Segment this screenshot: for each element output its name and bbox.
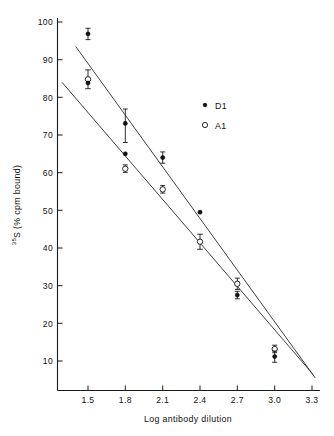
data-point-d1	[86, 81, 90, 85]
data-point-d1	[198, 210, 202, 214]
legend-marker-d1-icon	[203, 103, 207, 107]
y-tick-label-30: 30	[43, 281, 53, 291]
data-point-a1	[235, 281, 240, 286]
fit-line-d1	[76, 47, 316, 379]
data-point-d1	[123, 152, 127, 156]
regression-lines	[62, 47, 315, 379]
data-point-d1	[123, 121, 127, 125]
svg-text:35S (% cpm bound): 35S (% cpm bound)	[11, 165, 22, 246]
data-point-a1	[123, 166, 128, 171]
y-tick-label-90: 90	[43, 55, 53, 65]
x-tick-label-6: 3.0	[268, 395, 281, 405]
series-d1	[86, 28, 278, 362]
axes	[58, 18, 321, 391]
data-point-d1	[86, 32, 90, 36]
y-axis-title: 35S (% cpm bound)	[11, 165, 22, 246]
y-tick-label-80: 80	[43, 93, 53, 103]
data-point-d1	[273, 355, 277, 359]
x-tick-label-2: 1.8	[119, 395, 132, 405]
y-tick-label-10: 10	[43, 356, 53, 366]
y-tick-label-40: 40	[43, 243, 53, 253]
y-tick-label-20: 20	[43, 319, 53, 329]
legend-label-d1: D1	[215, 101, 227, 111]
x-tick-label-3: 2.1	[156, 395, 169, 405]
legend-label-a1: A1	[215, 121, 227, 131]
fit-line-a1	[62, 82, 313, 374]
legend-marker-a1-icon	[202, 122, 207, 127]
legend: D1 A1	[202, 101, 227, 131]
y-tick-label-70: 70	[43, 130, 53, 140]
y-axis-ticks: 100 90 80 70 60 50 40 30 20 10	[38, 17, 63, 366]
x-tick-label-4: 2.4	[194, 395, 207, 405]
data-point-a1	[197, 239, 202, 244]
y-tick-label-100: 100	[38, 17, 53, 27]
x-tick-label-7: 3.3	[306, 395, 319, 405]
x-tick-label-5: 2.7	[231, 395, 244, 405]
x-axis-ticks: 1.5 1.8 2.1 2.4 2.7 3.0 3.3	[82, 386, 319, 406]
data-point-d1	[161, 156, 165, 160]
y-tick-label-50: 50	[43, 206, 53, 216]
data-point-a1	[160, 187, 165, 192]
data-point-d1	[235, 293, 239, 297]
scatter-plot: 100 90 80 70 60 50 40 30 20 10 1.5 1.8 2…	[0, 0, 334, 436]
x-axis-title: Log antibody dilution	[144, 414, 232, 424]
y-axis-title-main: S (% cpm bound)	[12, 165, 22, 238]
y-tick-label-60: 60	[43, 168, 53, 178]
series-a1	[85, 70, 277, 353]
figure-container: 100 90 80 70 60 50 40 30 20 10 1.5 1.8 2…	[0, 0, 334, 436]
x-tick-label-1: 1.5	[82, 395, 95, 405]
